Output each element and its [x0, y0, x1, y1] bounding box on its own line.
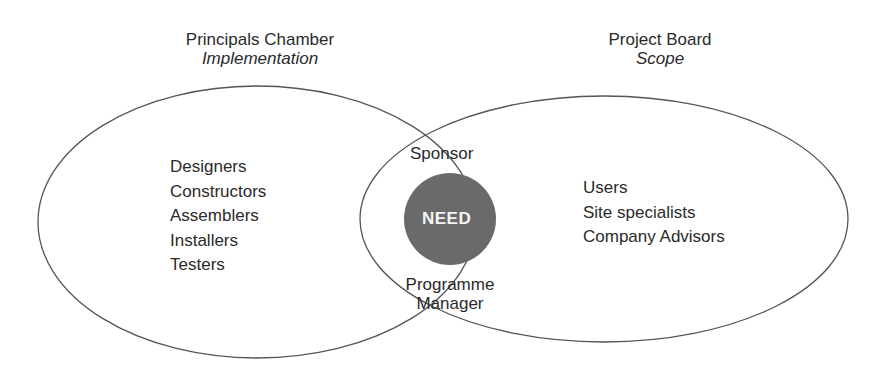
left-set-heading: Principals Chamber Implementation	[160, 30, 360, 68]
programme-manager-label: Programme Manager	[390, 275, 510, 313]
left-member: Installers	[170, 229, 266, 254]
manager-label: Manager	[390, 294, 510, 313]
left-member: Testers	[170, 253, 266, 278]
left-member: Constructors	[170, 180, 266, 205]
right-set-subtitle: Scope	[560, 49, 760, 68]
right-set-title: Project Board	[560, 30, 760, 49]
sponsor-label: Sponsor	[410, 144, 473, 163]
left-set-members: Designers Constructors Assemblers Instal…	[170, 155, 266, 278]
venn-diagram: Principals Chamber Implementation Projec…	[0, 0, 890, 369]
left-member: Designers	[170, 155, 266, 180]
programme-label: Programme	[390, 275, 510, 294]
right-member: Site specialists	[583, 201, 725, 226]
left-set-title: Principals Chamber	[160, 30, 360, 49]
left-member: Assemblers	[170, 204, 266, 229]
right-set-heading: Project Board Scope	[560, 30, 760, 68]
left-set-subtitle: Implementation	[160, 49, 360, 68]
need-label: NEED	[422, 209, 471, 229]
right-set-members: Users Site specialists Company Advisors	[583, 176, 725, 250]
right-member: Company Advisors	[583, 225, 725, 250]
right-member: Users	[583, 176, 725, 201]
